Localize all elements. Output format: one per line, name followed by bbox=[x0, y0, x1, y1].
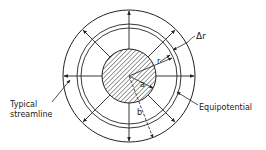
label-typical-streamline-line2: streamline bbox=[10, 110, 53, 119]
label-delta-r: Δr bbox=[196, 31, 206, 41]
label-b: b bbox=[137, 108, 142, 117]
label-equipotential: Equipotential bbox=[199, 103, 252, 112]
delta-r-arrow-outer bbox=[173, 42, 188, 50]
label-typical-streamline-line1: Typical bbox=[9, 100, 37, 109]
radial-flow-diagram: Δr r a b Typical streamline Equipotentia… bbox=[0, 0, 266, 150]
delta-r-leader bbox=[188, 36, 195, 42]
label-a: a bbox=[140, 80, 145, 89]
equipotential-leader bbox=[177, 92, 198, 105]
